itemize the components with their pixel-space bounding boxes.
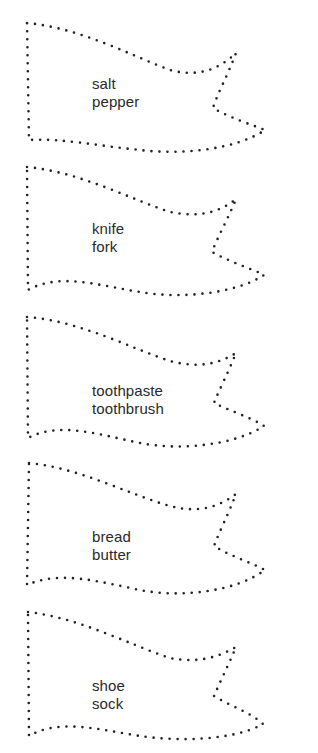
word-2: toothbrush <box>92 400 164 418</box>
flag-label: toothpaste toothbrush <box>92 382 164 418</box>
word-1: shoe <box>92 677 125 695</box>
word-2: butter <box>92 546 131 564</box>
word-1: salt <box>92 75 139 93</box>
word-1: bread <box>92 528 131 546</box>
flag-5: shoe sock <box>0 590 318 740</box>
word-2: sock <box>92 695 125 713</box>
flag-label: knife fork <box>92 220 124 256</box>
flag-label: salt pepper <box>92 75 139 111</box>
flag-label: bread butter <box>92 528 131 564</box>
word-1: knife <box>92 220 124 238</box>
flag-4: bread butter <box>0 440 318 590</box>
dotted-flag-outline <box>0 440 318 590</box>
word-1: toothpaste <box>92 382 164 400</box>
word-2: fork <box>92 238 124 256</box>
word-2: pepper <box>92 93 139 111</box>
flag-2: knife fork <box>0 144 318 294</box>
flag-1: salt pepper <box>0 0 318 150</box>
dotted-flag-outline <box>0 0 318 150</box>
dotted-flag-outline <box>0 293 318 443</box>
dotted-flag-outline <box>0 590 318 740</box>
flag-label: shoe sock <box>92 677 125 713</box>
flag-3: toothpaste toothbrush <box>0 293 318 443</box>
dotted-flag-outline <box>0 144 318 294</box>
